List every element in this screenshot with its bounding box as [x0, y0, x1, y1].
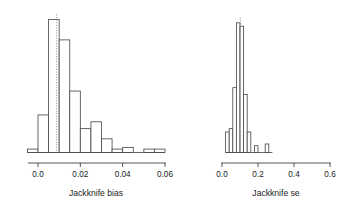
left-histogram-bar: [59, 40, 70, 153]
right-x-axis: [221, 163, 331, 167]
left-histogram-bar: [154, 149, 165, 152]
right-histogram-bar: [244, 94, 248, 152]
right-histogram-bar: [233, 88, 237, 153]
left-histogram-bar: [38, 115, 49, 153]
right-histogram-bar: [226, 132, 230, 152]
right-histogram-bar: [240, 26, 244, 152]
left-histogram-bar: [70, 91, 81, 152]
left-histogram-bar: [144, 149, 155, 152]
two-panel-histogram-figure: 0.00.020.040.06 Jackknife bias 0.00.20.4…: [0, 0, 352, 210]
right-histogram-bar: [236, 23, 240, 153]
axis-tick-label: 0.6: [324, 170, 336, 179]
left-histogram-bar: [80, 129, 91, 153]
figure-canvas: 0.00.020.040.06 Jackknife bias 0.00.20.4…: [0, 0, 352, 210]
right-axis-title: Jackknife se: [252, 188, 300, 198]
right-histogram-bar: [229, 129, 233, 153]
left-x-tick-labels: 0.00.020.040.06: [32, 170, 173, 179]
axis-tick-label: 0.2: [252, 170, 264, 179]
right-histogram-bar: [254, 146, 258, 153]
right-x-tick-labels: 0.00.20.40.6: [216, 170, 336, 179]
axis-tick-label: 0.0: [32, 170, 44, 179]
left-histogram-bar: [112, 149, 123, 152]
right-histogram-panel: 0.00.20.40.6 Jackknife se: [216, 18, 336, 198]
right-histogram-bar: [265, 144, 269, 153]
left-histogram-bar: [91, 122, 102, 153]
left-histogram-bar: [27, 149, 38, 152]
right-histogram-bar: [247, 132, 251, 152]
left-axis-title: Jackknife bias: [69, 188, 123, 198]
axis-tick-label: 0.4: [288, 170, 300, 179]
left-histogram-bar: [49, 19, 60, 152]
axis-tick-label: 0.02: [72, 170, 88, 179]
left-x-axis: [28, 163, 166, 167]
axis-tick-label: 0.0: [216, 170, 228, 179]
left-histogram-bars: [27, 19, 165, 152]
left-histogram-bar: [102, 139, 113, 153]
axis-tick-label: 0.04: [115, 170, 131, 179]
axis-tick-label: 0.06: [157, 170, 173, 179]
right-histogram-bars: [226, 23, 273, 153]
left-histogram-panel: 0.00.020.040.06 Jackknife bias: [27, 14, 173, 198]
left-histogram-bar: [123, 147, 134, 152]
